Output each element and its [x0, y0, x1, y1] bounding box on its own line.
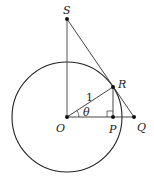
point-R	[111, 85, 115, 89]
label-P: P	[108, 123, 117, 136]
unit-circle-diagram: S R O P Q 1 θ	[0, 0, 154, 177]
point-O	[65, 115, 69, 119]
label-O: O	[56, 122, 65, 135]
label-S: S	[63, 4, 71, 17]
label-R: R	[117, 78, 126, 91]
tangent-SQ	[67, 19, 134, 117]
point-P	[111, 115, 115, 119]
label-radius: 1	[86, 91, 93, 104]
label-angle: θ	[83, 106, 90, 119]
point-Q	[132, 115, 136, 119]
angle-arc	[77, 111, 79, 118]
point-S	[65, 17, 69, 21]
label-Q: Q	[137, 121, 146, 134]
